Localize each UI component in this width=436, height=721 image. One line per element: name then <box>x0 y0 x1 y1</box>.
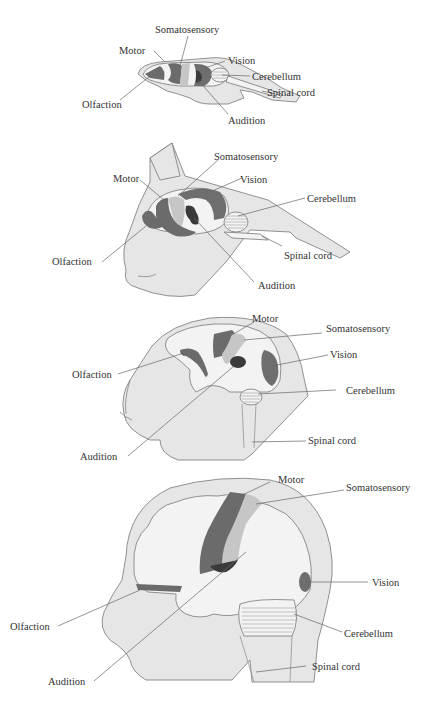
human-label-audition: Audition <box>48 676 86 687</box>
cat-label-motor: Motor <box>113 173 140 184</box>
human-label-spinal-cord: Spinal cord <box>312 661 361 672</box>
cat-label-spinal-cord: Spinal cord <box>284 250 333 261</box>
monkey-audition-region <box>230 356 246 368</box>
human-label-cerebellum: Cerebellum <box>344 628 393 639</box>
monkey-cerebellum <box>240 389 262 405</box>
brain-comparison-diagram: Somatosensory Motor Vision Cerebellum Sp… <box>0 0 436 721</box>
monkey-label-motor: Motor <box>252 313 279 324</box>
monkey-label-spinal-cord: Spinal cord <box>308 435 357 446</box>
rat-olfaction-leader <box>120 76 150 100</box>
human-label-vision: Vision <box>372 577 400 588</box>
rat-label-motor: Motor <box>119 45 146 56</box>
human-diagram: Motor Somatosensory Vision Cerebellum Sp… <box>10 474 411 687</box>
human-label-somatosensory: Somatosensory <box>346 482 411 493</box>
cat-spinal-cord-leader <box>262 236 282 246</box>
cat-label-somatosensory: Somatosensory <box>214 151 279 162</box>
rat-diagram: Somatosensory Motor Vision Cerebellum Sp… <box>82 24 316 126</box>
monkey-label-audition: Audition <box>80 451 118 462</box>
rat-motor-leader <box>154 51 165 62</box>
monkey-label-cerebellum: Cerebellum <box>346 385 395 396</box>
rat-label-spinal-cord: Spinal cord <box>267 87 316 98</box>
human-label-motor: Motor <box>278 474 305 485</box>
cat-label-vision: Vision <box>240 174 268 185</box>
monkey-diagram: Motor Somatosensory Vision Cerebellum Sp… <box>72 313 395 462</box>
monkey-label-olfaction: Olfaction <box>72 369 112 380</box>
monkey-label-somatosensory: Somatosensory <box>326 323 391 334</box>
cat-diagram: Somatosensory Motor Vision Cerebellum Sp… <box>52 143 356 296</box>
cat-label-audition: Audition <box>258 280 296 291</box>
monkey-label-vision: Vision <box>330 349 358 360</box>
rat-label-somatosensory: Somatosensory <box>155 24 220 35</box>
rat-label-olfaction: Olfaction <box>82 99 122 110</box>
rat-label-audition: Audition <box>228 115 266 126</box>
cat-label-cerebellum: Cerebellum <box>307 193 356 204</box>
rat-label-cerebellum: Cerebellum <box>252 71 301 82</box>
rat-label-vision: Vision <box>228 55 256 66</box>
cat-label-olfaction: Olfaction <box>52 256 92 267</box>
human-label-olfaction: Olfaction <box>10 621 50 632</box>
human-cerebellum <box>239 600 297 637</box>
